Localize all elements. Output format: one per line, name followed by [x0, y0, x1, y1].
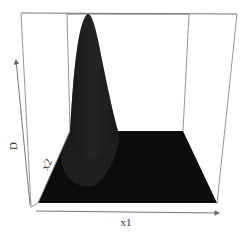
box-front-left-edge: [21, 13, 31, 207]
box-front-right-edge: [217, 14, 237, 204]
x1-axis-arrow: [36, 211, 219, 213]
x1-axis-label: x1: [121, 216, 132, 228]
box-back-right-edge: [183, 14, 189, 131]
x2-axis-label: x2: [39, 157, 55, 172]
box-bottom-left-edge: [31, 203, 38, 207]
surface-peak-shade: [70, 14, 118, 160]
box-front-top-edge: [21, 13, 237, 14]
persp-plot: x1 D x2: [0, 0, 245, 237]
box-back-left-edge: [67, 14, 70, 131]
d-axis-arrow: [16, 60, 30, 205]
d-axis-label: D: [7, 142, 19, 150]
